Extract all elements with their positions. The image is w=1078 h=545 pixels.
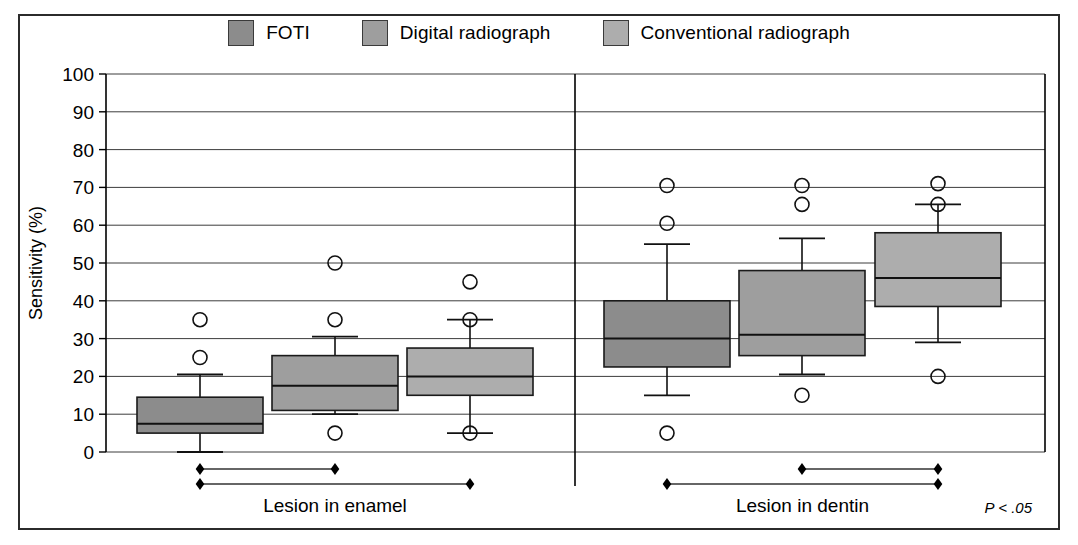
significance-marker-4-right [934, 478, 943, 490]
significance-marker-3-right [934, 463, 943, 475]
outlier-point-1 [328, 426, 342, 440]
boxplot-5 [739, 179, 865, 403]
significance-marker-1-left [196, 463, 205, 475]
outlier-point-2 [328, 313, 342, 327]
box-iqr [875, 233, 1001, 307]
box-iqr [407, 348, 533, 395]
chart-root: FOTI Digital radiograph Conventional rad… [0, 0, 1078, 545]
box-iqr [272, 356, 398, 411]
outlier-point-3 [795, 179, 809, 193]
outlier-point-1 [660, 426, 674, 440]
boxplot-2 [272, 256, 398, 440]
y-tick-label-20: 20 [73, 366, 94, 387]
y-tick-label-0: 0 [83, 442, 94, 463]
significance-marker-1-right [331, 463, 340, 475]
boxplot-4 [604, 179, 730, 441]
significance-marker-4-left [663, 478, 672, 490]
significance-marker-3-left [798, 463, 807, 475]
outlier-point-3 [463, 275, 477, 289]
y-tick-label-30: 30 [73, 329, 94, 350]
outlier-point-3 [660, 179, 674, 193]
outlier-point-2 [660, 216, 674, 230]
outlier-point-2 [193, 313, 207, 327]
y-tick-label-90: 90 [73, 102, 94, 123]
y-tick-label-40: 40 [73, 291, 94, 312]
boxplot-1 [137, 313, 263, 452]
y-tick-label-70: 70 [73, 177, 94, 198]
box-iqr [604, 301, 730, 367]
boxplot-6 [875, 177, 1001, 384]
significance-marker-2-right [466, 478, 475, 490]
significance-marker-2-left [196, 478, 205, 490]
box-iqr [137, 397, 263, 433]
outlier-point-1 [795, 388, 809, 402]
y-tick-label-60: 60 [73, 215, 94, 236]
y-tick-label-50: 50 [73, 253, 94, 274]
y-tick-label-10: 10 [73, 404, 94, 425]
box-iqr [739, 271, 865, 356]
boxplot-svg: 0102030405060708090100 [0, 0, 1078, 545]
outlier-point-1 [193, 351, 207, 365]
boxplot-3 [407, 275, 533, 440]
outlier-point-3 [931, 177, 945, 191]
y-tick-label-80: 80 [73, 140, 94, 161]
y-tick-label-100: 100 [62, 64, 94, 85]
outlier-point-2 [795, 197, 809, 211]
